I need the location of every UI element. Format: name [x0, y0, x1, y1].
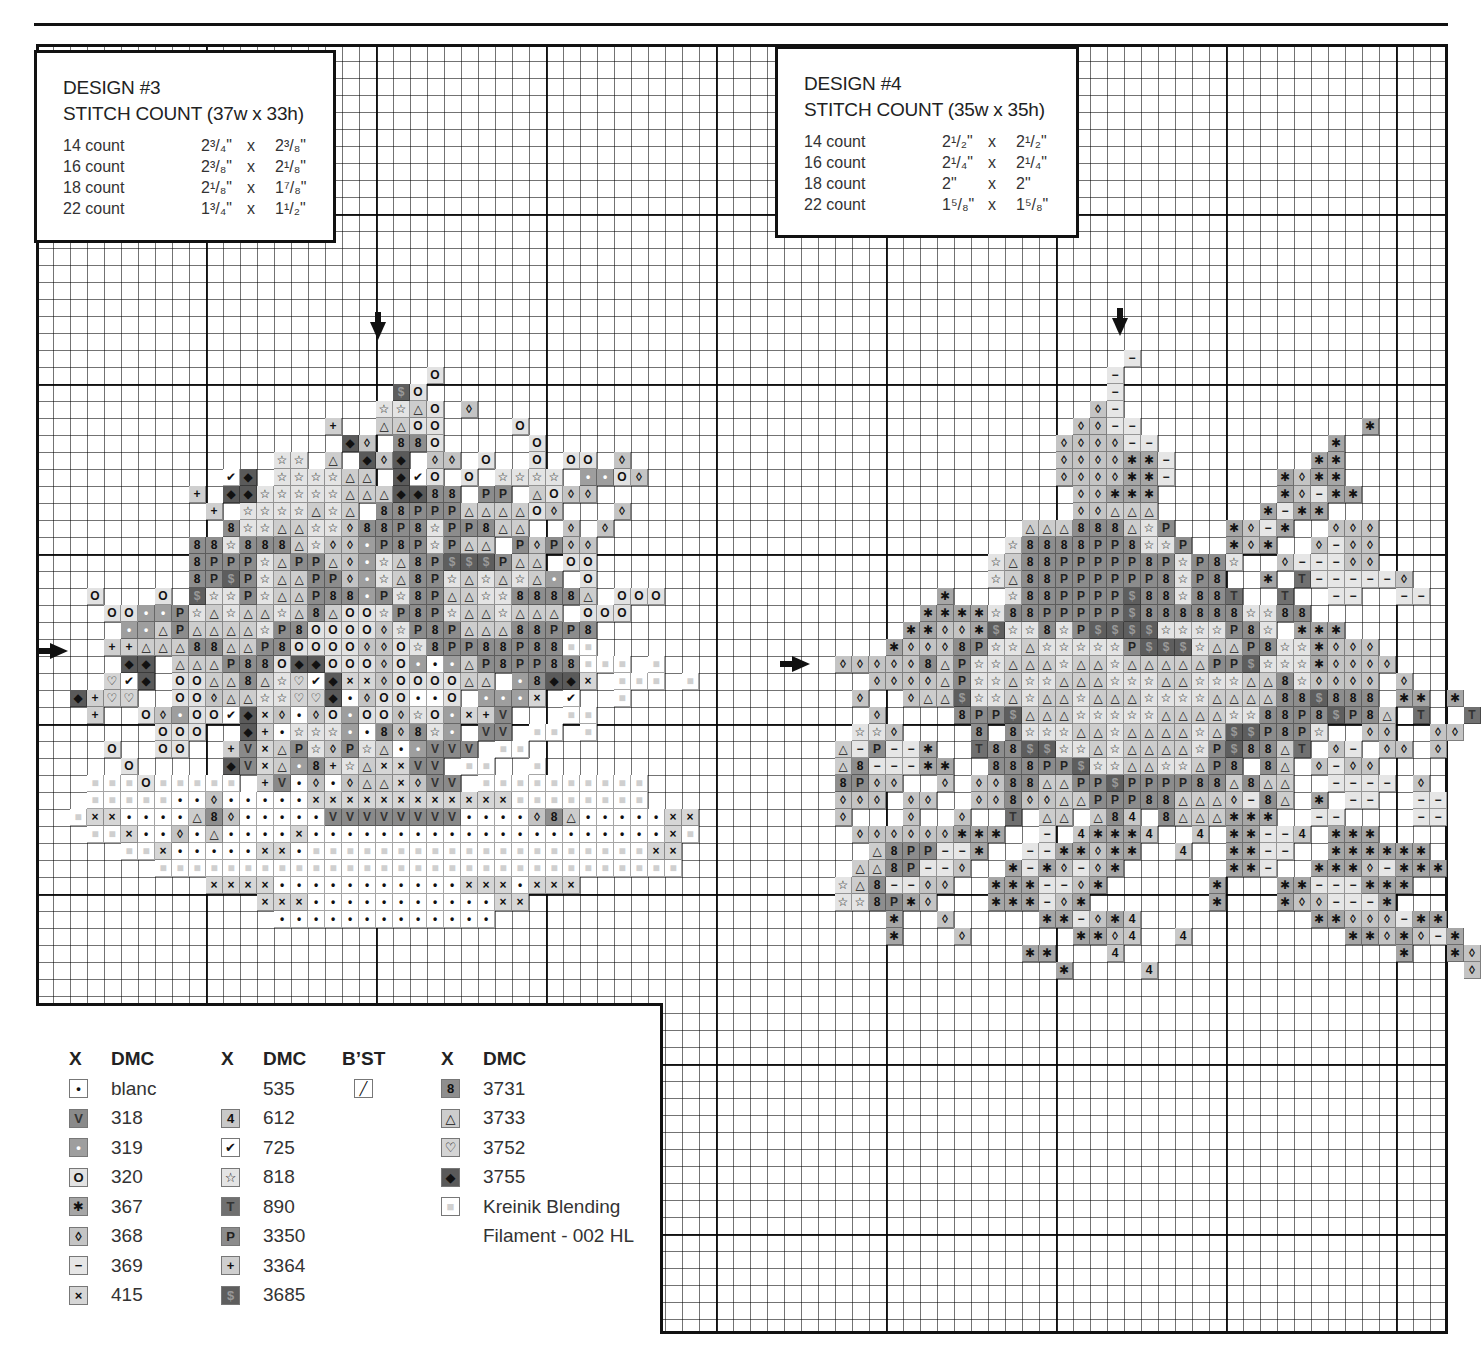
symbol-swatch-icon: ◊	[69, 1227, 88, 1246]
symbol-swatch-icon: △	[441, 1109, 460, 1128]
color-key-legend: XDMC•blancV318•319O320✱367◊368−369×415 X…	[36, 1003, 663, 1334]
dmc-code: 368	[111, 1225, 143, 1247]
design4-stitch-count: STITCH COUNT (35w x 35h)	[804, 97, 1076, 123]
legend-item: ✱367	[36, 1192, 171, 1222]
design3-size-table: 14 count2³/₄"x2³/₈" 16 count2³/₈"x2¹/₈" …	[63, 135, 306, 219]
symbol-swatch-icon: O	[69, 1168, 88, 1187]
symbol-swatch-icon: 4	[221, 1109, 240, 1128]
top-rule	[34, 23, 1448, 26]
size-row: 16 count2¹/₄"x2¹/₄"	[804, 152, 1048, 173]
symbol-swatch-icon: −	[69, 1256, 88, 1275]
size-row: 18 count2"x2"	[804, 173, 1048, 194]
dmc-code: 818	[263, 1166, 295, 1188]
dmc-code: 319	[111, 1137, 143, 1159]
dmc-code: 725	[263, 1137, 295, 1159]
legend-header: XDMC	[36, 1044, 171, 1074]
design4-size-table: 14 count2¹/₂"x2¹/₂" 16 count2¹/₄"x2¹/₄" …	[804, 131, 1048, 215]
legend-item: ☆818	[188, 1163, 323, 1193]
symbol-swatch-icon: ☆	[221, 1168, 240, 1187]
stitch-cell: ✱	[1447, 690, 1464, 707]
legend-item: ■Kreinik Blending	[408, 1192, 634, 1222]
dmc-code: blanc	[111, 1078, 156, 1100]
symbol-swatch-icon: T	[221, 1197, 240, 1216]
dmc-code: 3364	[263, 1255, 305, 1277]
legend-item: ×415	[36, 1281, 171, 1311]
legend-header: XDMC	[188, 1044, 323, 1074]
legend-item: •blanc	[36, 1074, 171, 1104]
legend-item: •319	[36, 1133, 171, 1163]
center-arrow-right-icon-design4	[792, 656, 810, 672]
center-arrow-down-icon-design4	[1112, 318, 1128, 336]
size-row: 14 count2¹/₂"x2¹/₂"	[804, 131, 1048, 152]
legend-column-backstitch: B’ST╱	[340, 1044, 385, 1104]
symbol-swatch-icon: $	[221, 1286, 240, 1305]
stitch-cell: ◊	[1464, 962, 1481, 979]
dmc-code: 369	[111, 1255, 143, 1277]
legend-item: 4612	[188, 1104, 323, 1134]
legend-header: XDMC	[408, 1044, 634, 1074]
legend-column-3: XDMC83731△3733♡3752◆3755■Kreinik Blendin…	[408, 1044, 634, 1251]
design4-title: DESIGN #4	[804, 71, 1076, 97]
legend-column-1: XDMC•blancV318•319O320✱367◊368−369×415	[36, 1044, 171, 1310]
dmc-code: 3733	[483, 1107, 525, 1129]
symbol-swatch-icon: V	[69, 1109, 88, 1128]
legend-item: O320	[36, 1163, 171, 1193]
symbol-swatch-icon: ■	[441, 1197, 460, 1216]
center-arrow-right-icon-design3	[50, 643, 68, 659]
dmc-code: Kreinik Blending	[483, 1196, 620, 1218]
legend-item: −369	[36, 1251, 171, 1281]
legend-header-label: X	[36, 1044, 111, 1074]
legend-header-label: DMC	[263, 1044, 323, 1074]
symbol-swatch-icon: ✱	[69, 1197, 88, 1216]
size-row: 14 count2³/₄"x2³/₈"	[63, 135, 306, 156]
dmc-code: 318	[111, 1107, 143, 1129]
legend-item: Filament - 002 HL	[408, 1222, 634, 1252]
dmc-code: 890	[263, 1196, 295, 1218]
legend-header-label: B’ST	[340, 1044, 385, 1074]
symbol-swatch-icon: 8	[441, 1079, 460, 1098]
size-row: 22 count1³/₄"x1¹/₂"	[63, 198, 306, 219]
symbol-swatch-icon: ×	[69, 1286, 88, 1305]
legend-header-label: DMC	[483, 1044, 543, 1074]
legend-header-label: X	[408, 1044, 483, 1074]
dmc-code: 320	[111, 1166, 143, 1188]
legend-header-label: X	[188, 1044, 263, 1074]
size-row: 22 count1⁵/₈"x1⁵/₈"	[804, 194, 1048, 215]
dmc-code: 535	[263, 1078, 295, 1100]
dmc-code: 3755	[483, 1166, 525, 1188]
symbol-swatch-icon: •	[69, 1138, 88, 1157]
stitch-cell: ◊	[1464, 945, 1481, 962]
legend-item: ╱	[340, 1074, 385, 1104]
legend-item: P3350	[188, 1222, 323, 1252]
stitch-cell: ✱	[1447, 928, 1464, 945]
legend-item: 535	[188, 1074, 323, 1104]
size-row: 16 count2³/₈"x2¹/₈"	[63, 156, 306, 177]
stitch-cell: T	[1464, 707, 1481, 724]
legend-item: T890	[188, 1192, 323, 1222]
stitch-cell: ◊	[1447, 724, 1464, 741]
legend-item: 83731	[408, 1074, 634, 1104]
legend-item: +3364	[188, 1251, 323, 1281]
legend-item: ◊368	[36, 1222, 171, 1252]
legend-item: V318	[36, 1104, 171, 1134]
dmc-code: 612	[263, 1107, 295, 1129]
legend-item: ◆3755	[408, 1163, 634, 1193]
dmc-code: 3731	[483, 1078, 525, 1100]
design4-info-box: DESIGN #4 STITCH COUNT (35w x 35h) 14 co…	[775, 46, 1079, 238]
symbol-swatch-icon: •	[69, 1079, 88, 1098]
legend-item: ♡3752	[408, 1133, 634, 1163]
dmc-code: 415	[111, 1284, 143, 1306]
legend-item: $3685	[188, 1281, 323, 1311]
legend-header: B’ST	[340, 1044, 385, 1074]
symbol-swatch-icon: ✔	[221, 1138, 240, 1157]
legend-item: ✔725	[188, 1133, 323, 1163]
symbol-swatch-icon: P	[221, 1227, 240, 1246]
design3-stitch-count: STITCH COUNT (37w x 33h)	[63, 101, 333, 127]
design3-title: DESIGN #3	[63, 75, 333, 101]
dmc-code: 3350	[263, 1225, 305, 1247]
legend-header-label: DMC	[111, 1044, 171, 1074]
design3-info-box: DESIGN #3 STITCH COUNT (37w x 33h) 14 co…	[34, 50, 336, 243]
symbol-swatch-icon: +	[221, 1256, 240, 1275]
stitch-cell: ✱	[1447, 945, 1464, 962]
dmc-code: 3685	[263, 1284, 305, 1306]
